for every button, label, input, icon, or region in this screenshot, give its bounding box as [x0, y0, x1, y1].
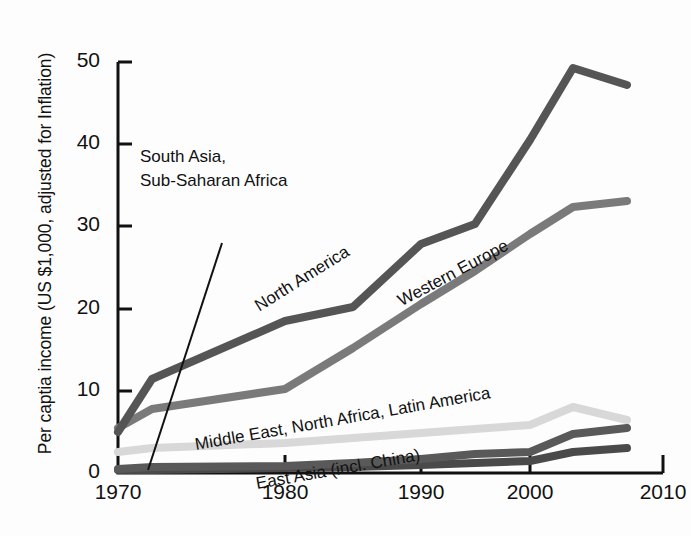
y-axis-title: Per captia income (US $1,000, adjusted f…	[35, 19, 56, 489]
series-line-western-europe	[118, 201, 627, 428]
x-tick-label-1990: 1990	[376, 480, 466, 504]
x-tick-label-2000: 2000	[485, 480, 575, 504]
x-tick-label-2010: 2010	[618, 480, 691, 504]
y-tick-label-40: 40	[50, 130, 100, 154]
chart-container: Per captia income (US $1,000, adjusted f…	[0, 0, 691, 536]
annotation-south-asia-line2: Sub-Saharan Africa	[140, 170, 287, 191]
annotation-south-asia-line1: South Asia,	[140, 146, 226, 167]
y-tick-label-50: 50	[50, 48, 100, 72]
x-tick-label-1970: 1970	[73, 480, 163, 504]
y-tick-label-10: 10	[50, 377, 100, 401]
chart-plot-area	[0, 0, 691, 536]
y-tick-label-20: 20	[50, 295, 100, 319]
y-tick-label-30: 30	[50, 212, 100, 236]
series-line-north-america	[118, 68, 627, 432]
